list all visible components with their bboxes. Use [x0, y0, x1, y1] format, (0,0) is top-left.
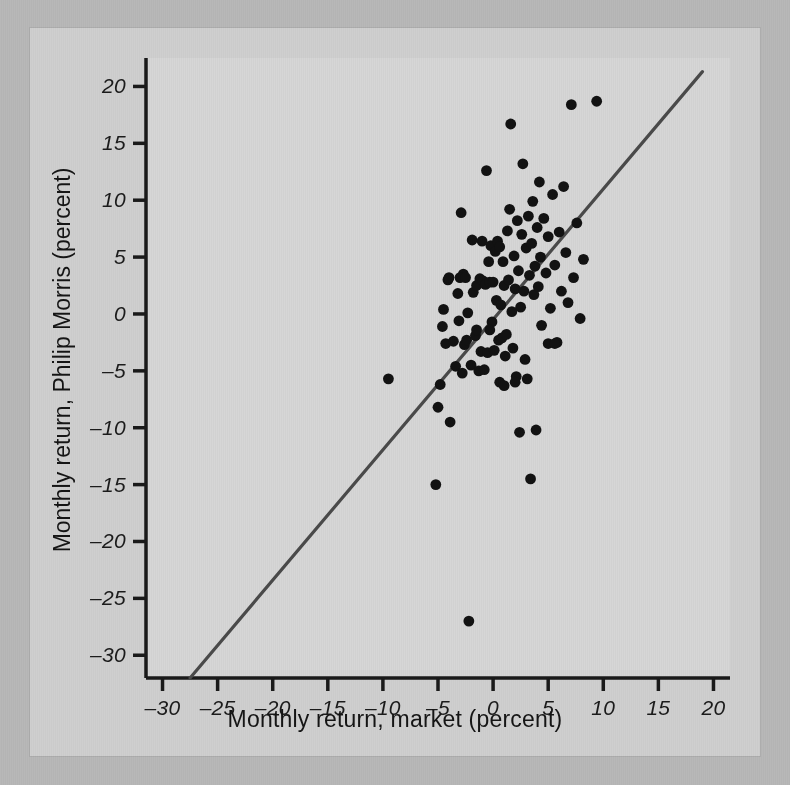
- data-point: [457, 368, 468, 379]
- data-point: [504, 204, 515, 215]
- data-point: [531, 425, 542, 436]
- data-point: [503, 274, 514, 285]
- data-point: [519, 286, 530, 297]
- data-point: [543, 231, 554, 242]
- data-point: [533, 281, 544, 292]
- data-point: [591, 96, 602, 107]
- data-point: [494, 241, 505, 252]
- data-point: [571, 218, 582, 229]
- data-point: [520, 354, 531, 365]
- scatter-points: [383, 96, 602, 627]
- data-point: [433, 402, 444, 413]
- data-point: [538, 213, 549, 224]
- data-point: [499, 380, 510, 391]
- data-point: [549, 338, 560, 349]
- data-point: [489, 345, 500, 356]
- data-point: [437, 321, 448, 332]
- data-point: [515, 302, 526, 313]
- y-tick-label: 20: [60, 74, 126, 98]
- data-point: [467, 235, 478, 246]
- data-point: [534, 177, 545, 188]
- data-point: [517, 158, 528, 169]
- y-tick-label: 15: [60, 131, 126, 155]
- regression-line: [190, 72, 702, 678]
- axes: [146, 58, 730, 678]
- data-point: [568, 272, 579, 283]
- data-point: [575, 313, 586, 324]
- data-point: [530, 261, 541, 272]
- data-point: [445, 417, 456, 428]
- y-tick-label: –25: [60, 586, 126, 610]
- data-point: [545, 303, 556, 314]
- data-point: [488, 277, 499, 288]
- data-point: [547, 189, 558, 200]
- data-point: [508, 343, 519, 354]
- data-point: [527, 196, 538, 207]
- data-point: [444, 272, 455, 283]
- data-point: [556, 286, 567, 297]
- data-point: [448, 336, 459, 347]
- data-point: [558, 181, 569, 192]
- data-point: [456, 207, 467, 218]
- data-point: [479, 364, 490, 375]
- data-point: [438, 304, 449, 315]
- data-point: [452, 288, 463, 299]
- data-point: [510, 377, 521, 388]
- data-point: [525, 474, 536, 485]
- data-point: [526, 238, 537, 249]
- data-point: [512, 215, 523, 226]
- data-point: [563, 297, 574, 308]
- data-point: [502, 226, 513, 237]
- data-point: [484, 324, 495, 335]
- data-point: [460, 272, 471, 283]
- data-point: [495, 299, 506, 310]
- data-point: [522, 373, 533, 384]
- figure-page: –30–25–20–15–10–50510152020151050–5–10–1…: [0, 0, 790, 785]
- data-point: [483, 256, 494, 267]
- data-point: [566, 99, 577, 110]
- data-point: [509, 251, 520, 262]
- data-point: [430, 479, 441, 490]
- data-point: [454, 315, 465, 326]
- data-point: [554, 227, 565, 238]
- data-point: [513, 265, 524, 276]
- data-point: [516, 229, 527, 240]
- data-point: [481, 165, 492, 176]
- data-point: [505, 119, 516, 130]
- data-point: [532, 222, 543, 233]
- data-point: [535, 252, 546, 263]
- data-point: [498, 256, 509, 267]
- data-point: [462, 307, 473, 318]
- data-point: [383, 373, 394, 384]
- scatter-plot-canvas: [0, 0, 790, 785]
- axis-ticks: [133, 86, 713, 691]
- data-point: [523, 211, 534, 222]
- data-point: [501, 329, 512, 340]
- data-point: [471, 324, 482, 335]
- data-point: [541, 268, 552, 279]
- data-point: [435, 379, 446, 390]
- data-point: [514, 427, 525, 438]
- data-point: [500, 351, 511, 362]
- data-point: [524, 270, 535, 281]
- data-point: [578, 254, 589, 265]
- fit-line: [190, 72, 702, 678]
- data-point: [549, 260, 560, 271]
- x-axis-title: Monthly return, market (percent): [0, 706, 790, 733]
- data-point: [560, 247, 571, 258]
- data-point: [536, 320, 547, 331]
- y-axis-title: Monthly return, Philip Morris (percent): [49, 168, 76, 553]
- data-point: [463, 616, 474, 627]
- y-tick-label: –30: [60, 643, 126, 667]
